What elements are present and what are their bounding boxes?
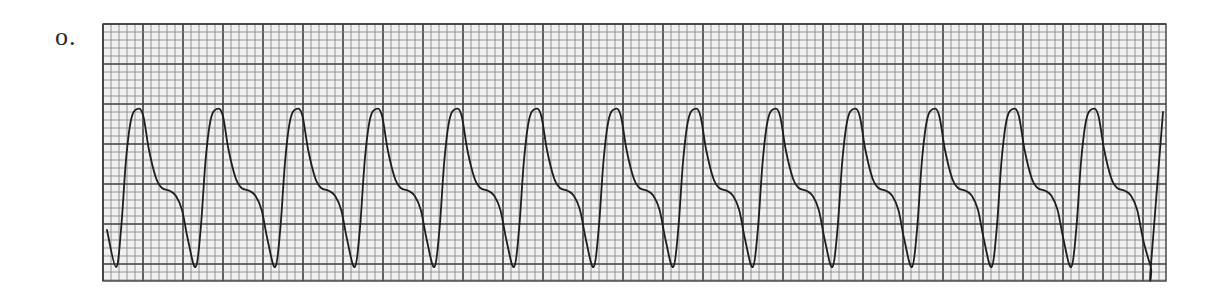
ecg-strip	[0, 0, 1218, 295]
